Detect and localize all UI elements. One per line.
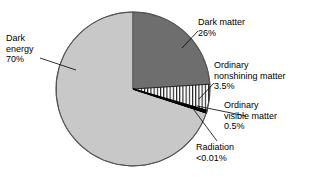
slice-label-visible-line2: visible matter	[224, 111, 277, 122]
slice-label-dark-matter: Dark matter 26%	[198, 17, 245, 38]
pie-chart-figure: Dark energy 70% Dark matter 26% Ordinary…	[0, 0, 319, 177]
slice-label-nonshining-line2: nonshining matter	[214, 71, 286, 82]
slice-label-dark-energy: Dark energy 70%	[6, 33, 34, 65]
slice-label-visible-value: 0.5%	[224, 121, 277, 132]
slice-label-radiation-value: <0.01%	[196, 153, 234, 164]
slice-label-nonshining-line1: Ordinary	[214, 60, 286, 71]
slice-label-dark-matter-value: 26%	[198, 28, 245, 39]
slice-label-dark-energy-value: 70%	[6, 54, 34, 65]
slice-label-visible-line1: Ordinary	[224, 100, 277, 111]
slice-label-dark-energy-line1: Dark	[6, 33, 34, 44]
slice-label-nonshining-value: 3.5%	[214, 81, 286, 92]
slice-label-radiation-line1: Radiation	[196, 142, 234, 153]
slice-label-ordinary-nonshining-matter: Ordinary nonshining matter 3.5%	[214, 60, 286, 92]
slice-label-radiation: Radiation <0.01%	[196, 142, 234, 163]
slice-label-dark-energy-line2: energy	[6, 44, 34, 55]
slice-label-ordinary-visible-matter: Ordinary visible matter 0.5%	[224, 100, 277, 132]
slice-label-dark-matter-line1: Dark matter	[198, 17, 245, 28]
